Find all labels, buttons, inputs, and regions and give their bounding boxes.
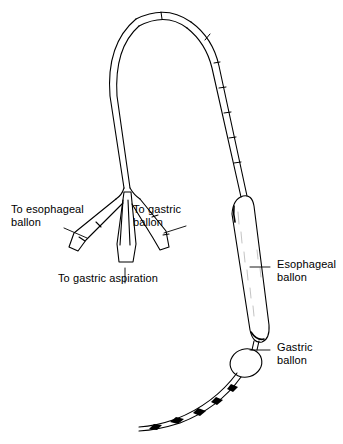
label-to-esophageal-ballon: To esophageal ballon (11, 203, 84, 229)
figure-root: To esophageal ballon To gastric ballon T… (0, 0, 343, 444)
label-to-gastric-ballon: To gastric ballon (133, 203, 181, 229)
label-to-gastric-aspiration: To gastric aspiration (58, 272, 158, 285)
label-esophageal-ballon: Esophageal ballon (277, 258, 336, 284)
figure-caption (8, 436, 208, 444)
label-gastric-ballon: Gastric ballon (277, 341, 313, 367)
